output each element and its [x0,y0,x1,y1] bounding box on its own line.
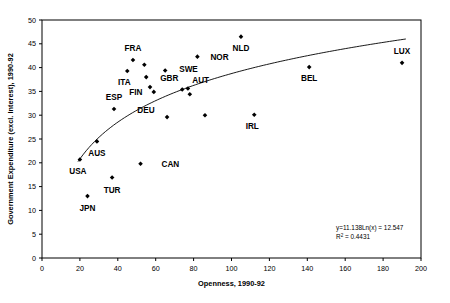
x-tick-label-40: 40 [114,264,122,273]
x-tick-label-0: 0 [40,264,44,273]
x-tick-label-80: 80 [190,264,198,273]
chart-canvas: 0510152025303540455002040608010012014016… [0,0,450,303]
point-label-FIN: FIN [129,88,142,97]
r-squared-label: R2 = 0.4431 [336,233,370,241]
scatter-chart: 0510152025303540455002040608010012014016… [0,0,450,303]
x-tick-label-200: 200 [415,264,427,273]
x-tick-label-20: 20 [76,264,84,273]
point-label-TUR: TUR [104,186,121,195]
y-tick-label-15: 15 [28,182,36,191]
point-label-FRA: FRA [125,44,142,53]
data-point-NLD[interactable] [239,34,244,39]
point-label-NLD: NLD [233,44,250,53]
data-point-ITA[interactable] [125,69,130,74]
data-point-JPN[interactable] [85,194,90,199]
data-point-LUX[interactable] [400,61,405,66]
data-point-AUT[interactable] [180,87,185,92]
point-label-GBR: GBR [160,74,178,83]
data-point-ESP[interactable] [112,107,117,112]
plot-frame [42,20,421,258]
x-tick-label-160: 160 [339,264,351,273]
data-point-BEL[interactable] [307,65,312,70]
data-point-CAN[interactable] [138,161,143,166]
data-point-AUS[interactable] [95,139,100,144]
point-label-DEU: DEU [137,106,154,115]
y-tick-label-25: 25 [28,135,36,144]
point-label-CAN: CAN [162,160,180,169]
x-tick-label-120: 120 [263,264,275,273]
data-point-NOR[interactable] [195,54,200,59]
y-tick-label-10: 10 [28,206,36,215]
x-tick-label-140: 140 [301,264,313,273]
point-label-AUS: AUS [88,149,106,158]
y-axis-title: Government Expenditure (excl. Interest),… [6,53,15,225]
x-tick-label-100: 100 [226,264,238,273]
data-point-FRA[interactable] [131,58,136,63]
point-label-SWE: SWE [179,65,198,74]
y-tick-label-0: 0 [32,254,36,263]
point-label-ITA: ITA [118,78,131,87]
point-label-USA: USA [69,167,86,176]
point-label-ESP: ESP [106,93,123,102]
point-label-IRL: IRL [246,122,259,131]
y-tick-label-45: 45 [28,39,36,48]
data-point-SWE[interactable] [163,68,168,73]
point-label-AUT: AUT [192,76,209,85]
trendline-equation: y=11.138Ln(x) = 12.547 [336,224,404,232]
x-axis-title: Openness, 1990-92 [198,279,265,288]
data-point-DEU[interactable] [148,85,153,90]
x-tick-label-60: 60 [152,264,160,273]
data-point-TUR[interactable] [110,175,115,180]
y-tick-label-50: 50 [28,16,36,25]
data-point-pt13[interactable] [165,115,170,120]
data-point-GBR[interactable] [144,75,149,80]
y-tick-label-40: 40 [28,63,36,72]
data-point-pt8[interactable] [142,62,147,67]
data-point-pt18[interactable] [203,113,208,118]
point-label-JPN: JPN [80,204,96,213]
point-label-NOR: NOR [210,53,228,62]
x-tick-label-180: 180 [377,264,389,273]
y-tick-label-30: 30 [28,111,36,120]
point-label-LUX: LUX [394,47,411,56]
data-point-IRL[interactable] [252,112,257,117]
y-tick-label-20: 20 [28,158,36,167]
point-label-BEL: BEL [301,74,317,83]
y-tick-label-35: 35 [28,87,36,96]
y-tick-label-5: 5 [32,230,36,239]
trendline [78,39,406,162]
data-point-FIN[interactable] [152,90,157,95]
data-point-pt16[interactable] [188,92,193,97]
